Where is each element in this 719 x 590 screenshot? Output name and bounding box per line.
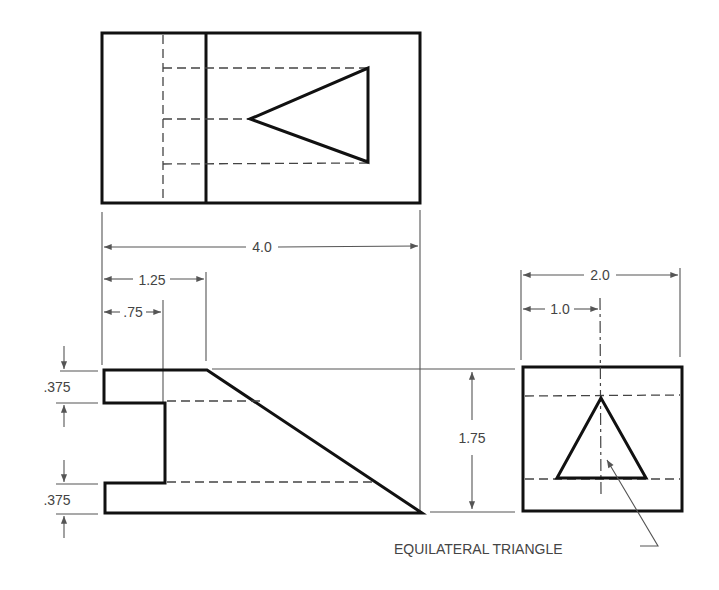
side-view-triangle [557,398,646,478]
orthographic-drawing: 4.0 1.25 .75 .375 .375 1.75 [0,0,719,590]
top-view-hidden-line [163,163,368,164]
note-equilateral-triangle: EQUILATERAL TRIANGLE [394,541,563,557]
dim-top-flange: .375 [43,379,70,395]
dim-step-width: 1.25 [138,272,165,288]
height-dimension: 1.75 [212,369,515,512]
side-view: 2.0 1.0 [521,267,682,511]
side-view-outline [523,367,682,511]
side-view-hidden-line [525,395,680,396]
dim-notch-width: .75 [123,304,143,320]
top-view-outline [102,33,420,203]
front-view [104,370,422,513]
top-view [102,33,420,203]
dim-depth: 2.0 [590,267,610,283]
front-view-outline [104,370,422,513]
dim-height: 1.75 [458,430,485,446]
top-view-triangle [250,68,368,162]
dim-half-depth: 1.0 [550,301,570,317]
vertical-dimensions-left: .375 .375 [43,346,98,538]
dim-overall-width: 4.0 [252,239,272,255]
triangle-note: EQUILATERAL TRIANGLE [394,460,658,557]
horizontal-dimensions: 4.0 1.25 .75 [102,210,420,512]
dim-bottom-flange: .375 [43,492,70,508]
